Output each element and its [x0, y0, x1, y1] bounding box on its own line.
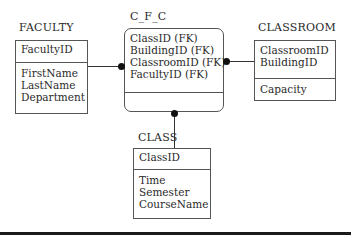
cfc-entity-title: C_F_C	[130, 10, 166, 23]
bottom-border-divider	[0, 232, 351, 235]
classroom-entity-title: CLASSROOM	[258, 21, 336, 34]
classroom-key-section: ClassroomID BuildingID	[255, 41, 335, 79]
faculty-entity-title: FACULTY	[19, 21, 74, 34]
classroom-cfc-many-dot-icon	[223, 58, 230, 65]
class-entity-title: CLASS	[138, 131, 178, 144]
classroom-attr-capacity: Capacity	[260, 83, 330, 95]
class-entity: ClassID Time Semester CourseName	[133, 148, 211, 219]
cfc-key-facultyid: FacultyID (FK)	[130, 68, 218, 80]
faculty-attr-lastname: LastName	[21, 79, 82, 91]
class-attr-coursename: CourseName	[139, 198, 205, 210]
cfc-entity: ClassID (FK) BuildingID (FK) ClassroomID…	[124, 28, 224, 112]
classroom-entity: ClassroomID BuildingID Capacity	[254, 40, 336, 101]
cfc-attribute-section	[125, 93, 223, 97]
faculty-attr-firstname: FirstName	[21, 67, 82, 79]
class-attr-semester: Semester	[139, 186, 205, 198]
faculty-key-section: FacultyID	[16, 41, 87, 63]
class-attribute-section: Time Semester CourseName	[134, 170, 210, 212]
cfc-key-buildingid: BuildingID (FK)	[130, 44, 218, 56]
classroom-key-classroomid: ClassroomID	[260, 44, 330, 56]
cfc-key-section: ClassID (FK) BuildingID (FK) ClassroomID…	[125, 29, 223, 93]
faculty-key-facultyid: FacultyID	[21, 43, 82, 55]
classroom-attribute-section: Capacity	[255, 79, 335, 97]
cfc-key-classid: ClassID (FK)	[130, 32, 218, 44]
faculty-attr-department: Department	[21, 91, 82, 103]
class-key-section: ClassID	[134, 149, 210, 170]
class-cfc-many-dot-icon	[171, 110, 178, 117]
cfc-key-classroomid: ClassroomID (FK)	[130, 56, 218, 68]
faculty-attribute-section: FirstName LastName Department	[16, 63, 87, 105]
faculty-entity: FacultyID FirstName LastName Department	[15, 40, 88, 114]
classroom-key-buildingid: BuildingID	[260, 56, 330, 68]
faculty-cfc-many-dot-icon	[118, 63, 125, 70]
class-attr-time: Time	[139, 174, 205, 186]
class-key-classid: ClassID	[139, 151, 205, 163]
class-cfc-relationship-line	[174, 112, 175, 148]
